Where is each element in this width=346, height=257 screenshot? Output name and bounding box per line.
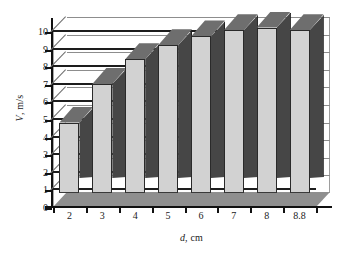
y-axis-tick-mark xyxy=(45,138,52,140)
x-axis-tick-label: 7 xyxy=(218,210,250,221)
bar[interactable] xyxy=(59,108,93,193)
x-axis-tick-mark xyxy=(86,207,88,213)
y-axis-tick-mark xyxy=(45,85,52,87)
bar-front-face xyxy=(290,30,310,193)
bar[interactable] xyxy=(224,15,258,193)
x-axis-tick-label: 6 xyxy=(185,210,217,221)
x-axis-tick-mark xyxy=(217,207,219,213)
x-axis-tick-label: 8.8 xyxy=(284,210,316,221)
x-axis-tick-mark xyxy=(185,207,187,213)
x-axis-tick-label: 4 xyxy=(119,210,151,221)
bar-front-face xyxy=(59,123,79,193)
y-axis-tick-mark xyxy=(45,120,52,122)
x-axis-line xyxy=(45,206,332,208)
bar-front-face xyxy=(158,45,178,193)
bar[interactable] xyxy=(158,30,192,193)
x-axis-tick-mark xyxy=(283,207,285,213)
x-axis-tick-labels: 23456788.8 xyxy=(53,210,330,226)
x-axis-tick-mark xyxy=(250,207,252,213)
bar-front-face xyxy=(224,30,244,193)
bar-chart: V, m/s 012345678910 23456788.8 d, cm xyxy=(0,0,346,257)
bar-front-face xyxy=(257,28,277,193)
bar-front-face xyxy=(191,36,211,193)
x-axis-title-units: , cm xyxy=(185,232,203,243)
x-axis-tick-mark xyxy=(53,207,55,213)
bar-front-face xyxy=(125,59,145,193)
bar[interactable] xyxy=(92,69,126,193)
bar[interactable] xyxy=(257,13,291,193)
y-axis-tick-mark xyxy=(45,155,52,157)
bar[interactable] xyxy=(125,44,159,193)
x-axis-tick-mark xyxy=(152,207,154,213)
plot-area xyxy=(53,17,330,207)
y-axis-tick-mark xyxy=(45,208,52,210)
y-axis-tick-mark xyxy=(45,67,52,69)
y-axis-tick-mark xyxy=(45,190,52,192)
y-axis-tick-mark xyxy=(45,173,52,175)
y-axis-tick-mark xyxy=(45,32,52,34)
x-axis-tick-label: 3 xyxy=(86,210,118,221)
bar-side-face xyxy=(310,15,324,178)
x-axis-tick-mark xyxy=(119,207,121,213)
bar[interactable] xyxy=(290,15,324,193)
y-axis-tick-labels: 012345678910 xyxy=(24,0,48,257)
y-axis-tick-mark xyxy=(45,102,52,104)
bars-container xyxy=(53,17,330,208)
x-axis-tick-label: 2 xyxy=(53,210,85,221)
bar[interactable] xyxy=(191,21,225,193)
x-axis-tick-mark xyxy=(316,207,318,213)
x-axis-tick-label: 8 xyxy=(251,210,283,221)
x-axis-title: d, cm xyxy=(53,232,330,243)
x-axis-tick-label: 5 xyxy=(152,210,184,221)
y-axis-tick-mark xyxy=(45,50,52,52)
bar-front-face xyxy=(92,84,112,193)
